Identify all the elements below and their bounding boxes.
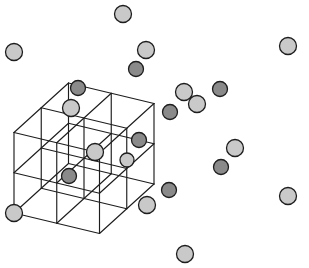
lattice-canvas — [0, 0, 309, 268]
atom-light-vertex-bottom-center — [139, 197, 156, 214]
atom-dark-interstitial-lower-right — [214, 160, 229, 175]
atom-dark-interstitial-top-center — [129, 62, 144, 77]
atom-light-node-upper-mid-right-a — [176, 84, 193, 101]
atom-dark-interstitial-bottom — [162, 183, 177, 198]
atom-light-vertex-top-back — [115, 6, 132, 23]
crystal-lattice-figure — [0, 0, 309, 268]
atom-light-vertex-top-center — [138, 42, 155, 59]
atom-light-node-mid-right — [227, 140, 244, 157]
atom-light-vertex-bottom-front-left — [6, 205, 23, 222]
atom-light-vertex-top-front-right — [280, 38, 297, 55]
atom-light-node-mid-left-upper — [63, 100, 80, 117]
atom-dark-interstitial-upper-right — [213, 82, 228, 97]
atom-dark-interstitial-lower-left — [62, 169, 77, 184]
atom-light-vertex-top-front-left — [6, 44, 23, 61]
atom-light-node-upper-mid-right-b — [189, 96, 206, 113]
atom-dark-interstitial-upper-left — [71, 81, 86, 96]
atom-dark-interstitial-center-upper — [163, 105, 178, 120]
atom-light-vertex-bottom-front — [177, 246, 194, 263]
atom-light-node-mid-left-lower — [87, 144, 104, 161]
atom-light-vertex-bottom-right — [280, 188, 297, 205]
lattice-atom-layer — [6, 6, 297, 263]
atom-dark-interstitial-center — [132, 133, 147, 148]
atom-light-node-center-dark-ringed — [120, 153, 134, 167]
